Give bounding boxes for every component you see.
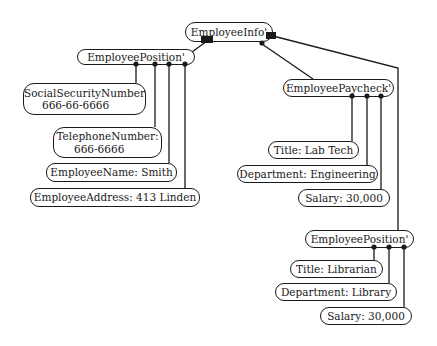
dot-port-icon[interactable] xyxy=(133,61,138,66)
dot-port-icon[interactable] xyxy=(152,61,157,66)
dot-port-icon[interactable] xyxy=(364,93,369,98)
square-port-icon[interactable] xyxy=(266,32,276,39)
dot-port-icon[interactable] xyxy=(349,93,354,98)
diagram-canvas: EmployeeInfo' EmployeePosition' SocialSe… xyxy=(0,0,437,346)
dot-port-icon[interactable] xyxy=(378,93,383,98)
dot-port-icon[interactable] xyxy=(371,244,376,249)
dot-port-icon[interactable] xyxy=(401,244,406,249)
connector-ports xyxy=(0,0,437,346)
dot-port-icon[interactable] xyxy=(259,40,264,45)
dot-port-icon[interactable] xyxy=(166,61,171,66)
dot-port-icon[interactable] xyxy=(182,61,187,66)
square-port-icon[interactable] xyxy=(201,36,213,43)
dot-port-icon[interactable] xyxy=(386,244,391,249)
